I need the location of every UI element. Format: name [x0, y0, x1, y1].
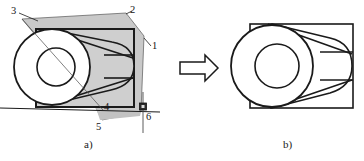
figure-vector-canvas: [0, 0, 364, 161]
part-caption-b: b): [283, 139, 292, 150]
part-a-group: [0, 11, 160, 133]
support-marker-inner: [142, 105, 145, 108]
right-arrow-icon: [180, 55, 218, 81]
callout-leader-1: [144, 38, 151, 46]
callout-label-3: 3: [11, 6, 16, 17]
callout-label-5: 5: [96, 122, 101, 133]
inner-circle: [255, 44, 299, 88]
technical-figure: 3 2 1 4 5 6 a) b): [0, 0, 364, 161]
part-caption-a: a): [84, 139, 93, 150]
inner-circle: [37, 48, 75, 86]
part-b-group: [231, 24, 353, 108]
callout-label-2: 2: [130, 5, 135, 16]
callout-label-1: 1: [152, 41, 157, 52]
transform-arrow-group: [180, 55, 218, 81]
callout-label-4: 4: [104, 102, 109, 113]
callout-label-6: 6: [146, 112, 151, 123]
